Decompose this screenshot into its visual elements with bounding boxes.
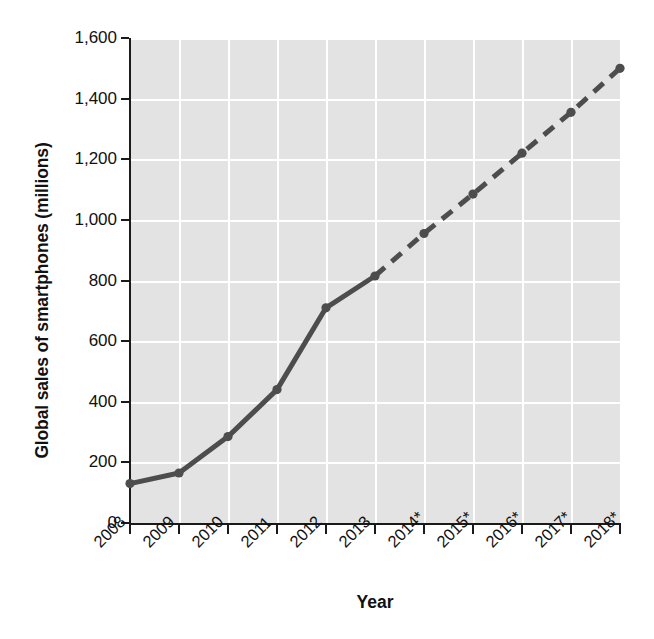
x-axis-title: Year	[130, 592, 620, 613]
data-series-layer	[0, 0, 654, 639]
data-point-marker	[566, 108, 575, 117]
data-point-marker	[419, 229, 428, 238]
data-point-marker	[321, 303, 330, 312]
data-point-marker	[517, 149, 526, 158]
data-point-marker	[615, 64, 624, 73]
data-point-marker	[125, 479, 134, 488]
data-point-marker	[174, 468, 183, 477]
data-point-marker	[370, 271, 379, 280]
line-chart: Global sales of smartphones (millions) 0…	[0, 0, 654, 639]
series-line-actual	[130, 276, 375, 484]
data-point-marker	[272, 385, 281, 394]
data-point-marker	[468, 190, 477, 199]
data-point-marker	[223, 432, 232, 441]
series-line-forecast	[375, 68, 620, 276]
